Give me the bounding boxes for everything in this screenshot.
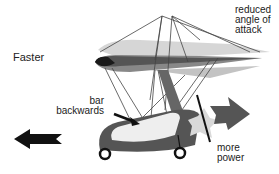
rear-wheel xyxy=(175,148,185,158)
reduced-angle-label: reduced angle of attack xyxy=(235,5,271,35)
power-arrow-icon xyxy=(210,97,250,130)
bar-backwards-label: bar backwards xyxy=(52,96,104,116)
trike-pod xyxy=(99,110,200,152)
more-power-label: more power xyxy=(217,143,244,163)
wing xyxy=(95,55,262,78)
faster-label: Faster xyxy=(13,52,44,62)
front-wheel xyxy=(100,149,110,159)
faster-arrow-icon xyxy=(14,129,62,149)
